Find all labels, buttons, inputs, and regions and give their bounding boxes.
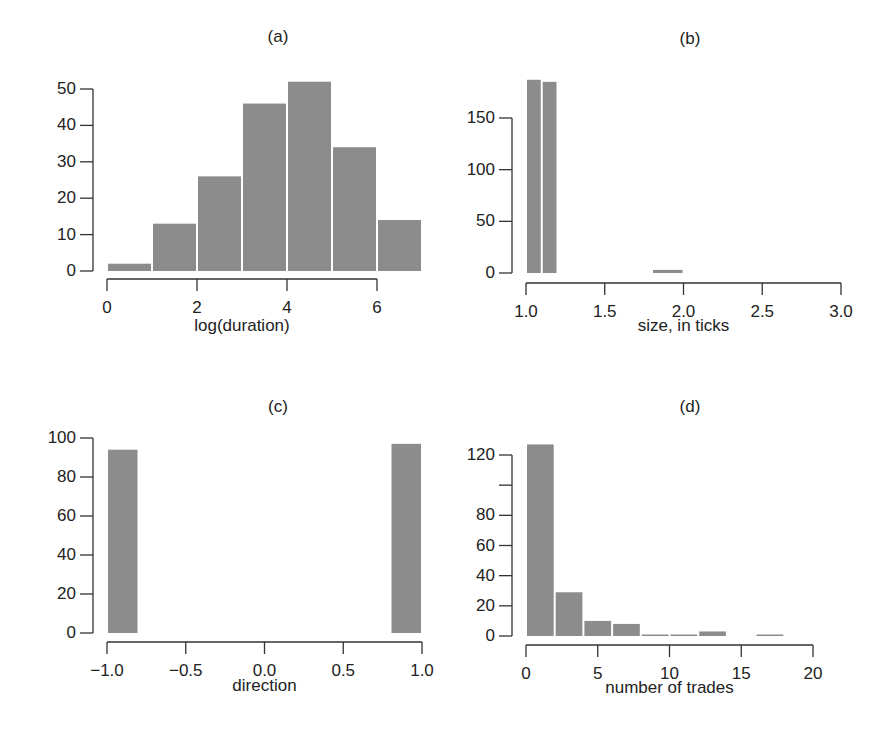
- histogram-bar: [757, 635, 784, 637]
- y-tick-label: 120: [467, 445, 495, 465]
- histogram-bar: [556, 592, 583, 636]
- x-tick-label: 20: [804, 664, 823, 684]
- histogram-bar: [584, 621, 611, 636]
- histogram-bar: [642, 634, 669, 636]
- x-tick-label: 15: [732, 664, 751, 684]
- y-tick-label: 40: [476, 566, 495, 586]
- y-tick-label: 60: [476, 536, 495, 556]
- histogram-bar: [613, 624, 640, 636]
- panel-d: (d) number of trades 0204060801200510152…: [0, 0, 874, 740]
- y-tick-label: 0: [486, 626, 495, 646]
- x-tick-label: 0: [521, 664, 530, 684]
- histogram-bar: [527, 444, 554, 636]
- histogram-bar: [671, 635, 698, 637]
- x-tick-label: 10: [660, 664, 679, 684]
- x-tick-label: 5: [593, 664, 602, 684]
- y-tick-label: 20: [476, 596, 495, 616]
- y-tick-label: 80: [476, 505, 495, 525]
- panel-title: (d): [680, 397, 701, 417]
- histogram-d: [0, 0, 874, 740]
- histogram-bar: [699, 631, 726, 636]
